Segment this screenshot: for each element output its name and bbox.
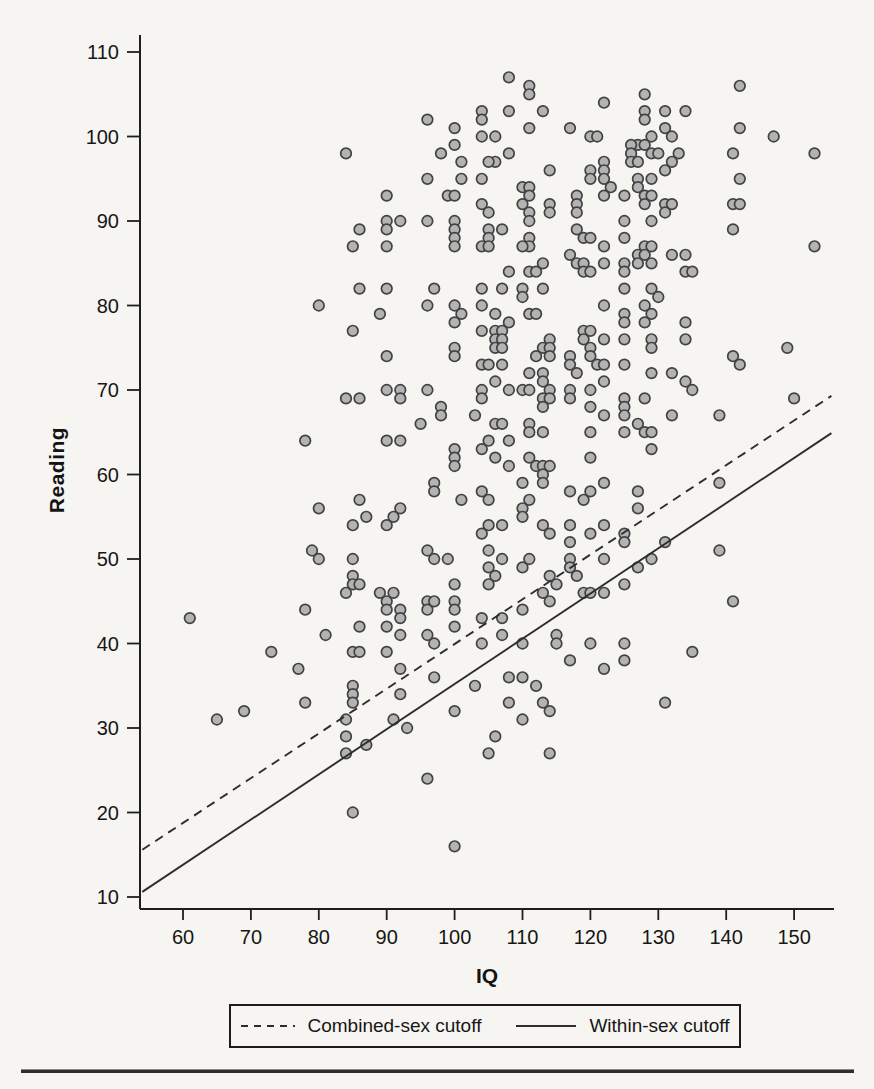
x-tick-label: 150 (777, 926, 810, 948)
data-point (667, 131, 678, 142)
data-point (633, 503, 644, 514)
data-point (497, 419, 508, 430)
y-tick-label: 30 (97, 717, 119, 739)
data-point (477, 444, 488, 455)
data-point (517, 292, 528, 303)
data-point (477, 613, 488, 624)
x-tick-label: 100 (438, 926, 471, 948)
x-tick-label: 120 (574, 926, 607, 948)
x-tick-label: 70 (240, 926, 262, 948)
data-point (483, 748, 494, 759)
data-point (314, 300, 325, 311)
data-point (354, 621, 365, 632)
data-point (429, 672, 440, 683)
y-axis-label: Reading (45, 427, 69, 513)
data-point (449, 706, 460, 717)
data-point (524, 89, 535, 100)
x-tick-label: 60 (172, 926, 194, 948)
data-point (422, 773, 433, 784)
data-point (354, 224, 365, 235)
y-tick-label: 100 (86, 126, 119, 148)
data-point (354, 495, 365, 506)
data-point (470, 681, 481, 692)
data-point (395, 630, 406, 641)
data-point (585, 233, 596, 244)
data-point (348, 241, 359, 252)
data-point (314, 503, 325, 514)
data-point (483, 207, 494, 218)
data-point (477, 131, 488, 142)
data-point (646, 427, 657, 438)
data-point (544, 596, 555, 607)
data-point (456, 174, 467, 185)
data-point (381, 283, 392, 294)
data-point (443, 554, 454, 565)
data-point (348, 807, 359, 818)
y-tick-label: 50 (97, 548, 119, 570)
data-point (572, 571, 583, 582)
data-point (354, 283, 365, 294)
data-point (585, 266, 596, 277)
data-point (538, 283, 549, 294)
data-point (680, 317, 691, 328)
data-point (422, 174, 433, 185)
data-point (544, 748, 555, 759)
data-point (497, 359, 508, 370)
data-point (517, 241, 528, 252)
data-point (497, 630, 508, 641)
data-point (619, 638, 630, 649)
y-tick-label: 20 (97, 802, 119, 824)
data-point (395, 393, 406, 404)
data-point (490, 309, 501, 320)
data-point (490, 731, 501, 742)
data-point (348, 697, 359, 708)
data-point (565, 393, 576, 404)
data-point (354, 579, 365, 590)
data-point (639, 199, 650, 210)
data-point (599, 334, 610, 345)
data-point (660, 106, 671, 117)
data-point (680, 106, 691, 117)
data-point (599, 664, 610, 675)
data-point (619, 233, 630, 244)
data-point (585, 528, 596, 539)
data-point (735, 174, 746, 185)
y-tick-label: 60 (97, 464, 119, 486)
data-point (341, 588, 352, 599)
data-point (381, 351, 392, 362)
data-point (415, 419, 426, 430)
data-point (429, 638, 440, 649)
data-point (348, 520, 359, 531)
data-point (599, 258, 610, 269)
data-point (653, 148, 664, 159)
data-point (619, 410, 630, 421)
dashed-cutoff-line (142, 396, 831, 850)
data-point (422, 114, 433, 125)
data-point (538, 427, 549, 438)
data-point (667, 368, 678, 379)
data-point (477, 114, 488, 125)
data-point (497, 520, 508, 531)
data-point (524, 123, 535, 134)
data-point (585, 452, 596, 463)
data-point (531, 681, 542, 692)
data-point (490, 452, 501, 463)
data-point (429, 596, 440, 607)
data-point (633, 486, 644, 497)
data-point (599, 410, 610, 421)
data-point (314, 554, 325, 565)
data-point (361, 512, 372, 523)
data-point (388, 588, 399, 599)
data-point (483, 545, 494, 556)
data-point (402, 723, 413, 734)
data-point (728, 596, 739, 607)
data-point (395, 613, 406, 624)
data-point (524, 427, 535, 438)
data-point (646, 258, 657, 269)
data-point (341, 148, 352, 159)
data-point (477, 326, 488, 337)
data-point (735, 81, 746, 92)
data-point (599, 300, 610, 311)
data-point (809, 148, 820, 159)
data-point (585, 174, 596, 185)
